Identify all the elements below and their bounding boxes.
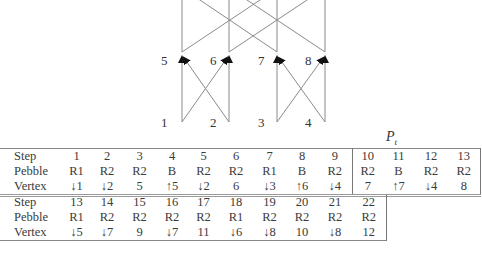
table-cell: ↓8: [318, 225, 352, 241]
table-cell: 18: [219, 195, 253, 210]
table-cell: 7: [352, 179, 383, 196]
table-cell: R1: [253, 164, 286, 179]
table-cell: R2: [352, 210, 386, 225]
node-label-5: 5: [161, 54, 168, 67]
table-cell: R2: [352, 164, 383, 179]
table-cell: ↓6: [219, 225, 253, 241]
table-cell: ↓7: [91, 225, 123, 241]
table-cell: 2: [91, 149, 123, 165]
table-cell: R2: [414, 164, 448, 179]
table-cell: ↓4: [318, 179, 352, 196]
table1-row-pebbles: PebbleR1R2R2BR2R2R1BR2R2BR2R2: [0, 164, 480, 179]
table-cell: 5: [188, 149, 219, 165]
table-cell: R1: [219, 210, 253, 225]
table-cell: 9: [123, 225, 156, 241]
partition-label: Pt: [386, 129, 397, 147]
table-cell: R2: [286, 210, 318, 225]
figure-caption-cutoff: [0, 252, 482, 258]
row-header: Step: [0, 149, 62, 165]
pebbling-steps-table-1: Step12345678910111213PebbleR1R2R2BR2R2R1…: [0, 148, 481, 197]
table-cell: R2: [188, 210, 219, 225]
table-cell: R2: [91, 164, 123, 179]
table-cell: 9: [318, 149, 352, 165]
row-header: Pebble: [0, 210, 62, 225]
table-cell: 11: [188, 225, 219, 241]
table-cell: ↓2: [188, 179, 219, 196]
table-cell: 7: [253, 149, 286, 165]
table-cell: ↑6: [286, 179, 318, 196]
table-cell: 4: [156, 149, 188, 165]
table-cell: ↓5: [62, 225, 91, 241]
table-cell: 20: [286, 195, 318, 210]
table-cell: ↓4: [414, 179, 448, 196]
row-header: Step: [0, 195, 62, 210]
node-label-7: 7: [258, 54, 265, 67]
table-cell: 3: [123, 149, 156, 165]
table2-row-vertices: Vertex↓5↓79↓711↓6↓810↓812: [0, 225, 386, 241]
table-cell: 10: [352, 149, 383, 165]
table-cell: R2: [219, 164, 253, 179]
table-cell: 14: [91, 195, 123, 210]
table-cell: 16: [156, 195, 188, 210]
node-label-6: 6: [210, 54, 217, 67]
row-header: Vertex: [0, 225, 62, 241]
table-cell: ↓8: [253, 225, 286, 241]
table-cell: 12: [352, 225, 386, 241]
table-cell: ↓2: [91, 179, 123, 196]
table-cell: B: [286, 164, 318, 179]
table-cell: 21: [318, 195, 352, 210]
table-cell: 8: [448, 179, 480, 196]
table-cell: 17: [188, 195, 219, 210]
table-cell: 13: [62, 195, 91, 210]
table-cell: B: [383, 164, 414, 179]
table1-row-vertices: Vertex↓1↓25↑5↓26↓3↑6↓47↑7↓48: [0, 179, 480, 196]
table-cell: B: [156, 164, 188, 179]
table-cell: 6: [219, 149, 253, 165]
node-label-3: 3: [258, 116, 265, 129]
table-cell: 11: [383, 149, 414, 165]
table-cell: 12: [414, 149, 448, 165]
table-cell: 22: [352, 195, 386, 210]
graph-edges: [182, 0, 325, 122]
table-cell: 13: [448, 149, 480, 165]
pebbling-graph: [0, 0, 482, 130]
node-label-8: 8: [305, 54, 312, 67]
table-cell: ↑5: [156, 179, 188, 196]
table-cell: 8: [286, 149, 318, 165]
table-cell: R2: [91, 210, 123, 225]
row-header: Pebble: [0, 164, 62, 179]
table-cell: R2: [123, 164, 156, 179]
table-cell: ↑7: [383, 179, 414, 196]
table-cell: ↓7: [156, 225, 188, 241]
table-cell: 15: [123, 195, 156, 210]
node-label-2: 2: [210, 116, 217, 129]
table-cell: R2: [318, 164, 352, 179]
table1-row-steps: Step12345678910111213: [0, 149, 480, 165]
table-cell: R2: [123, 210, 156, 225]
table-cell: 10: [286, 225, 318, 241]
table2-row-pebbles: PebbleR1R2R2R2R2R1R2R2R2R2: [0, 210, 386, 225]
node-label-4: 4: [305, 116, 312, 129]
table-cell: R2: [188, 164, 219, 179]
table-cell: R2: [253, 210, 286, 225]
table-cell: 5: [123, 179, 156, 196]
table-cell: R1: [62, 164, 91, 179]
table-cell: 19: [253, 195, 286, 210]
table-cell: R1: [62, 210, 91, 225]
table-cell: R2: [318, 210, 352, 225]
table-cell: R2: [448, 164, 480, 179]
table-cell: 1: [62, 149, 91, 165]
row-header: Vertex: [0, 179, 62, 196]
node-label-1: 1: [161, 116, 168, 129]
table-cell: ↓1: [62, 179, 91, 196]
table-cell: R2: [156, 210, 188, 225]
table2-row-steps: Step13141516171819202122: [0, 195, 386, 210]
table-cell: 6: [219, 179, 253, 196]
table-cell: ↓3: [253, 179, 286, 196]
pebbling-steps-table-2: Step13141516171819202122PebbleR1R2R2R2R2…: [0, 195, 387, 241]
